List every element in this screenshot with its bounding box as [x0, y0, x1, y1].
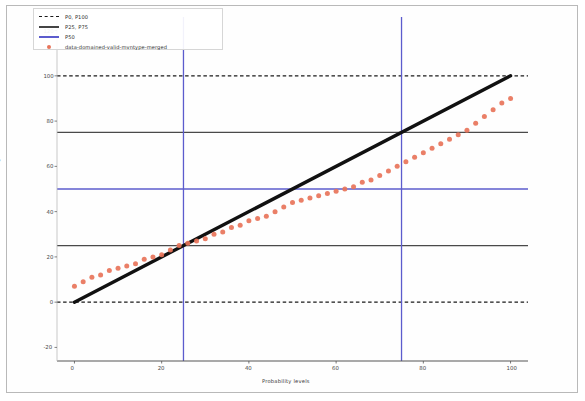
- y-tick-label: 40: [47, 209, 54, 215]
- legend-entry-p0-p100: P0, P100: [38, 12, 218, 21]
- legend: P0, P100 P25, P75 P50 data-domained-vali…: [33, 8, 223, 50]
- legend-entry-p50: P50: [38, 32, 218, 41]
- x-tick-label: 40: [245, 365, 252, 371]
- legend-label: P25, P75: [65, 24, 88, 30]
- x-tick-label: 20: [158, 365, 165, 371]
- y-tick-label: -20: [43, 344, 52, 350]
- y-tick-label: 0: [50, 299, 53, 305]
- y-tick-label: 60: [47, 163, 54, 169]
- scatter-points-group: [72, 96, 513, 289]
- y-tick-label: 100: [43, 73, 53, 79]
- solid-line-icon: [38, 22, 60, 31]
- figure-canvas: 020406080100-20020406080100120 Percentag…: [0, 0, 585, 401]
- dashed-line-icon: [38, 12, 60, 21]
- legend-label: P0, P100: [65, 14, 88, 20]
- x-tick-label: 100: [507, 365, 517, 371]
- x-tick-label: 60: [332, 365, 339, 371]
- y-tick-label: 20: [47, 254, 54, 260]
- blue-line-icon: [38, 32, 60, 41]
- legend-label: P50: [65, 34, 75, 40]
- x-tick-label: 0: [70, 365, 73, 371]
- y-tick-label: 80: [47, 118, 54, 124]
- x-axis-label: Probability levels: [262, 378, 310, 384]
- legend-entry-dataset: data-domained-valid-mvntype-merged: [38, 42, 218, 51]
- marker-dot-icon: [38, 42, 60, 51]
- plot-svg: [0, 0, 585, 401]
- legend-label: data-domained-valid-mvntype-merged: [65, 44, 167, 50]
- legend-entry-p25-p75: P25, P75: [38, 22, 218, 31]
- x-tick-label: 80: [419, 365, 426, 371]
